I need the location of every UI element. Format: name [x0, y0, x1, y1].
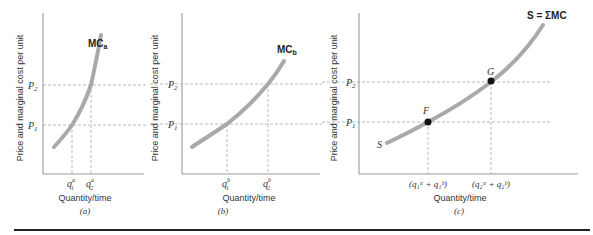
mc-a-curve: [54, 35, 101, 147]
supply-label: S = ΣMC: [527, 10, 567, 21]
mc-b-label: MCb: [277, 44, 297, 56]
caption-c: (c): [454, 206, 464, 216]
panel-b: Price and marginal cost per unit MCb P2 …: [150, 13, 322, 216]
p1-label-a: P1: [27, 120, 38, 133]
q1-label-a: qa1: [67, 177, 75, 191]
supply-start-label: S: [377, 139, 382, 150]
p2-label-b: P2: [167, 79, 178, 92]
q2-label-b: qb2: [263, 177, 271, 191]
q1-label-b: qb1: [222, 177, 230, 191]
supply-curve: [387, 25, 543, 143]
q2-label-a: qa2: [86, 177, 94, 191]
x-axis-label-b: Quantity/time: [222, 193, 275, 203]
p2-label-a: P2: [27, 80, 38, 93]
supply-curve-figure: Price and marginal cost per unit MCa P2 …: [0, 0, 593, 235]
y-axis-label-c: Price and marginal cost per unit: [329, 34, 339, 161]
p1-label-b: P1: [167, 119, 178, 132]
point-f: [425, 119, 432, 126]
q1-sum-label: (q₁ᵃ + q₁ᵇ): [409, 179, 447, 189]
mc-a-label: MCa: [88, 38, 108, 50]
mc-b-curve: [192, 61, 284, 147]
q2-sum-label: (q₂ᵃ + q₂ᵇ): [472, 179, 510, 189]
point-f-label: F: [422, 105, 430, 116]
panel-c: Price and marginal cost per unit F G S S…: [322, 10, 578, 216]
y-axis-label-b: Price and marginal cost per unit: [150, 34, 160, 161]
caption-a: (a): [80, 206, 91, 216]
y-axis-label-a: Price and marginal cost per unit: [15, 34, 25, 161]
panel-a: Price and marginal cost per unit MCa P2 …: [15, 13, 147, 216]
p2-label-c: P2: [345, 77, 356, 90]
p1-label-c: P1: [345, 117, 356, 130]
caption-b: (b): [218, 206, 229, 216]
point-g-label: G: [487, 66, 494, 77]
point-g: [488, 78, 495, 85]
x-axis-label-a: Quantity/time: [58, 193, 111, 203]
x-axis-label-c: Quantity/time: [433, 193, 486, 203]
